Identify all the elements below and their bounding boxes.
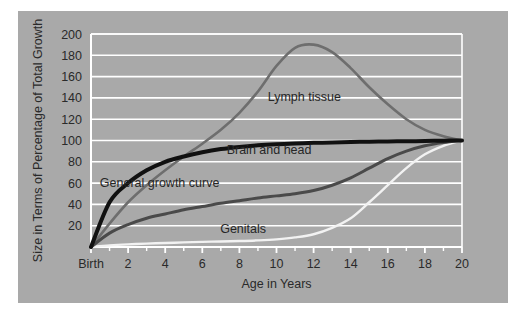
y-tick-label: 40 <box>68 198 82 212</box>
y-tick-label: 20 <box>68 219 82 233</box>
x-tick-label: Birth <box>78 257 104 271</box>
x-axis-title: Age in Years <box>241 277 311 291</box>
x-tick-label: 20 <box>455 257 469 271</box>
y-tick-label: 60 <box>68 177 82 191</box>
y-tick-label: 180 <box>61 49 82 63</box>
x-tick-label: 12 <box>307 257 321 271</box>
series-label-general-growth-curve: General growth curve <box>100 176 220 190</box>
x-tick-label: 8 <box>236 257 243 271</box>
y-tick-label: 200 <box>61 28 82 42</box>
x-axis-tick-labels: Birth2468101214161820 <box>78 257 469 271</box>
series-labels: Lymph tissueBrain and headGeneral growth… <box>100 90 341 236</box>
growth-curves-chart: 20406080100120140160180200Birth246810121… <box>0 0 525 319</box>
y-tick-label: 100 <box>61 134 82 148</box>
growth-curves-figure: 20406080100120140160180200Birth246810121… <box>0 0 525 319</box>
x-tick-label: 18 <box>418 257 432 271</box>
x-tick-label: 10 <box>270 257 284 271</box>
y-tick-label: 80 <box>68 155 82 169</box>
x-tick-label: 16 <box>381 257 395 271</box>
series-label-lymph-tissue: Lymph tissue <box>268 90 341 104</box>
x-tick-label: 6 <box>199 257 206 271</box>
y-axis-tick-labels: 20406080100120140160180200 <box>61 28 82 234</box>
x-axis-ticks <box>91 247 462 253</box>
y-tick-label: 120 <box>61 113 82 127</box>
y-tick-label: 140 <box>61 91 82 105</box>
series-label-brain-and-head: Brain and head <box>227 143 312 157</box>
x-tick-label: 14 <box>344 257 358 271</box>
y-tick-label: 160 <box>61 70 82 84</box>
x-tick-label: 4 <box>162 257 169 271</box>
y-axis-title: Size in Terms of Percentage of Total Gro… <box>31 19 45 262</box>
x-tick-label: 2 <box>125 257 132 271</box>
series-label-genitals: Genitals <box>220 222 266 236</box>
